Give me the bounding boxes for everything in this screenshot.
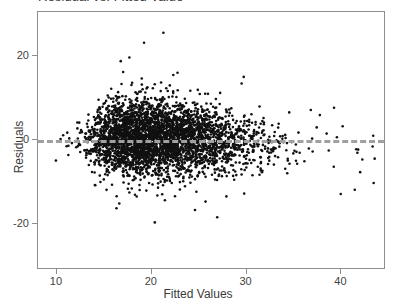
y-tick-label: -20 (13, 217, 29, 229)
x-tick-label: 20 (145, 275, 157, 287)
x-tick (151, 269, 152, 274)
x-tick-label: 40 (334, 275, 346, 287)
x-tick-label: 10 (50, 275, 62, 287)
y-axis-label: Residuals (12, 102, 26, 192)
y-tick-label: 20 (17, 49, 29, 61)
page-title: Residual vs. Fitted Value (38, 0, 183, 4)
x-tick (246, 269, 247, 274)
chart-screenshot: Residual vs. Fitted Value 10203040 200-2… (0, 0, 396, 300)
y-tick (32, 139, 37, 140)
x-tick (56, 269, 57, 274)
y-tick (32, 223, 37, 224)
x-tick (340, 269, 341, 274)
y-tick (32, 55, 37, 56)
x-tick-label: 30 (239, 275, 251, 287)
x-axis-label: Fitted Values (0, 287, 396, 300)
plot-area (37, 11, 385, 269)
zero-reference-line (38, 140, 384, 143)
